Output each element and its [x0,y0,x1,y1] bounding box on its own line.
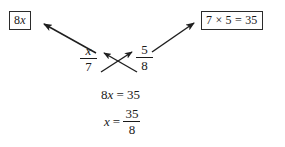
equation-step-2-denominator: 8 [123,123,140,136]
fraction-left-denominator: 7 [80,60,97,73]
fraction-left-numerator: x [80,44,97,57]
cross-arrow-7-to-5 [101,52,132,72]
fraction-right: 5 8 [136,43,153,73]
fraction-left: x 7 [80,44,97,74]
equation-step-2-equals: = [113,115,124,128]
arrow-to-7x5-callout [152,23,194,52]
equation-step-2: x = 35 8 [104,107,140,137]
equation-step-2-lhs: x [104,115,110,128]
callout-left-variable: x [20,13,26,27]
figure-canvas: 8x 7 × 5 = 35 x 7 5 8 8x = 35 x = [0,0,285,147]
cross-arrow-8-to-x [104,53,137,72]
equation-step-2-numerator: 35 [123,107,140,120]
equation-step-2-fraction: 35 8 [123,107,140,137]
equation-step-1: 8x = 35 [101,88,140,101]
callout-box-right: 7 × 5 = 35 [201,11,263,30]
callout-right-text: 7 × 5 = 35 [206,13,258,27]
fraction-right-denominator: 8 [136,59,153,72]
callout-left-text: 8x [14,13,26,27]
callout-box-left: 8x [9,11,31,30]
fraction-right-numerator: 5 [136,43,153,56]
